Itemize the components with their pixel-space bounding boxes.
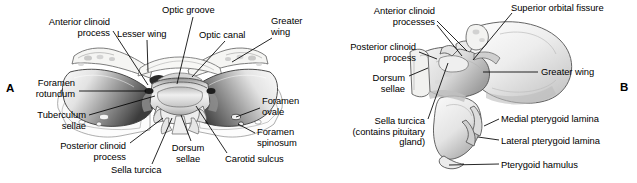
- label-carotid-sulcus: Carotid sulcus: [225, 154, 297, 165]
- label-foramen-rotundum: Foramen rotundum: [17, 78, 75, 99]
- label-foramen-spinosum: Foramen spinosum: [257, 127, 315, 148]
- panel-letter-a: A: [6, 82, 14, 94]
- label-pterygoid-hamulus: Pterygoid hamulus: [501, 160, 593, 171]
- label-sella-turcica: Sella turcica (contains pituitary gland): [323, 116, 425, 148]
- label-anterior-clinoid-process: Anterior clinoid process: [18, 17, 110, 38]
- label-sella-turcica: Sella turcica: [111, 165, 175, 176]
- leader-lateral-pterygoid-lamina: [478, 137, 499, 140]
- label-anterior-clinoid-processes: Anterior clinoid processes: [345, 6, 435, 27]
- label-posterior-clinoid-process: Posterior clinoid process: [328, 42, 416, 63]
- label-medial-pterygoid-lamina: Medial pterygoid lamina: [501, 114, 617, 125]
- label-tuberculum-sellae: Tuberculum sellae: [17, 110, 86, 131]
- label-greater-wing: Greater wing: [541, 67, 607, 78]
- label-foramen-ovale: Foramen ovale: [262, 96, 314, 117]
- panel-letter-b: B: [620, 81, 628, 93]
- sphenoid-bone-figure: Anterior clinoid processLesser wingOptic…: [0, 0, 637, 183]
- label-superior-orbital-fissure: Superior orbital fissure: [511, 3, 623, 14]
- label-greater-wing: Greater wing: [271, 16, 319, 37]
- label-dorsum-sellae: Dorsum sellae: [355, 73, 405, 94]
- label-dorsum-sellae: Dorsum sellae: [164, 143, 212, 164]
- panel-a-artwork: [58, 48, 283, 137]
- label-posterior-clinoid-process: Posterior clinoid process: [38, 141, 126, 162]
- label-lesser-wing: Lesser wing: [117, 29, 177, 40]
- panel-b-artwork: [410, 22, 572, 169]
- leader-medial-pterygoid-lamina: [484, 119, 499, 126]
- label-optic-groove: Optic groove: [162, 5, 228, 16]
- label-optic-canal: Optic canal: [199, 30, 257, 41]
- label-lateral-pterygoid-lamina: Lateral pterygoid lamina: [501, 136, 618, 147]
